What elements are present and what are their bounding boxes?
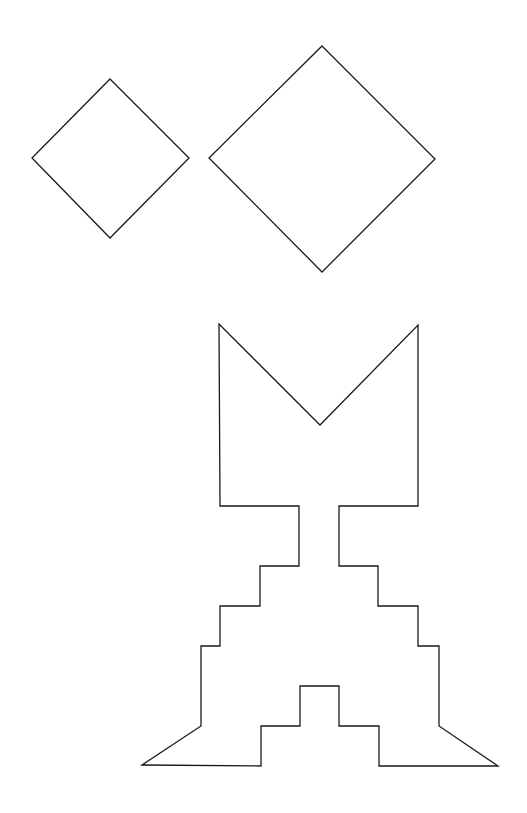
small-diamond-shape: [32, 79, 189, 238]
puzzle-canvas: [0, 0, 527, 813]
large-diamond-shape: [209, 46, 435, 272]
silhouette-figure-shape: [142, 324, 498, 766]
